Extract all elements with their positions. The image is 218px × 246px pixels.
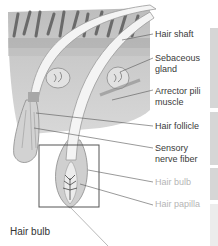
label-hair-bulb: Hair bulb: [155, 177, 191, 188]
side-bar-4: [210, 204, 218, 246]
inset-pointer-line: [70, 207, 108, 246]
label-sensory-nerve-fiber-line2: nerve fiber: [155, 154, 198, 165]
label-sensory-nerve-fiber-line1: Sensory: [155, 143, 188, 154]
label-hair-follicle: Hair follicle: [155, 121, 199, 132]
side-bar-2: [210, 112, 218, 165]
label-sebaceous-gland-line1: Sebaceous: [155, 53, 200, 64]
label-arrector-pili-line2: muscle: [155, 97, 184, 108]
label-arrector-pili-line1: Arrector pili: [155, 86, 201, 97]
hair-shaft-root-band: [28, 92, 39, 102]
caption-hair-bulb: Hair bulb: [10, 226, 50, 237]
side-bar-3: [210, 168, 218, 200]
hair-follicle-diagram: Hair shaft Sebaceous gland Arrector pili…: [0, 0, 218, 246]
label-hair-papilla: Hair papilla: [155, 199, 200, 210]
epidermis-band: [8, 38, 150, 48]
sebaceous-gland-left: [46, 68, 70, 88]
label-hair-shaft: Hair shaft: [155, 29, 194, 40]
side-bar-1: [210, 28, 218, 108]
label-sebaceous-gland-line2: gland: [155, 64, 177, 75]
